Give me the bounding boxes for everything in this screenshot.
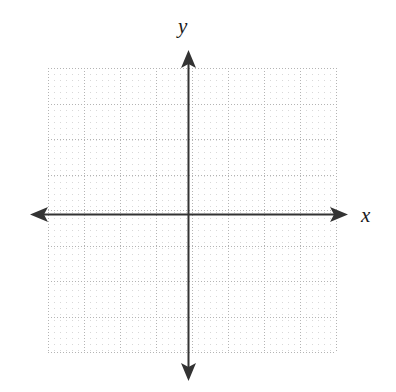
y-axis-label: y [178, 16, 187, 37]
x-axis-label: x [361, 205, 370, 226]
coordinate-plane-figure: y x [0, 0, 396, 392]
axes-layer [0, 0, 396, 392]
